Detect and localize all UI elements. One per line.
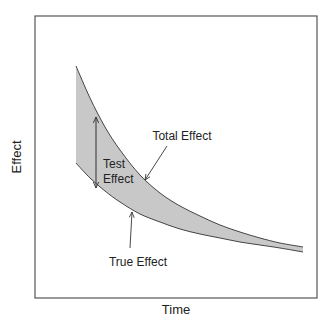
x-axis-label: Time <box>162 302 190 317</box>
y-axis-label: Effect <box>9 140 24 173</box>
total-effect-arrow <box>145 146 167 180</box>
total-effect-label: Total Effect <box>152 129 212 143</box>
test-effect-label-line2: Effect <box>103 172 134 186</box>
effect-time-chart: Total Effect True Effect Test Effect Tim… <box>0 0 333 319</box>
test-effect-label-line1: Test <box>103 157 126 171</box>
true-effect-arrow <box>130 212 132 248</box>
true-effect-label: True Effect <box>109 255 168 269</box>
